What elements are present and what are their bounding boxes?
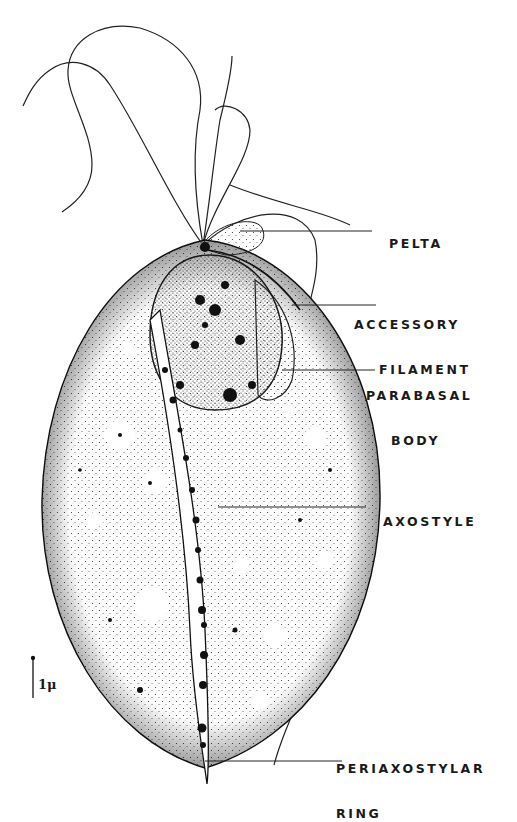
label-parabasal-body-line2: BODY [366,433,472,448]
scale-bar-label: 1μ [38,677,57,692]
label-periaxostylar-ring-line2: RING [336,806,485,821]
label-parabasal-body-line1: PARABASAL [366,388,472,403]
label-periaxostylar-ring-line1: PERIAXOSTYLAR [336,761,485,776]
flagella [23,26,350,245]
label-axostyle-line1: AXOSTYLE [383,514,476,529]
label-pelta: PELTA [375,221,443,251]
label-periaxostylar-ring: PERIAXOSTYLAR RING [336,731,485,822]
scale-bar [32,657,35,699]
label-pelta-line1: PELTA [389,236,443,251]
label-axostyle: AXOSTYLE [369,499,476,529]
label-accessory-filament-line1: ACCESSORY [354,317,471,332]
label-parabasal-body: PARABASAL BODY [366,358,472,463]
